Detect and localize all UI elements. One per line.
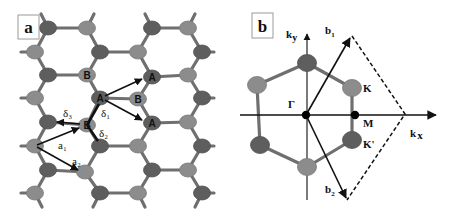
atom xyxy=(130,139,147,153)
panel-b-label: b xyxy=(258,17,267,36)
atom xyxy=(92,139,109,153)
atom xyxy=(92,186,109,200)
atom xyxy=(194,139,211,153)
atom xyxy=(180,68,197,82)
atom-label-a: A xyxy=(96,93,103,104)
atom xyxy=(194,186,211,200)
atom-label-b: B xyxy=(83,70,90,81)
vector-labels: δ₃ δ₁ δ₂ a₁ a₂ xyxy=(58,107,110,167)
atom xyxy=(180,21,197,35)
brillouin-corner xyxy=(298,159,317,176)
atom xyxy=(92,45,109,59)
graphene-lattice-figure: BAABBA δ₃ δ₁ δ₂ a₁ a₂ a xyxy=(0,0,457,216)
panel-a-real-space-lattice: BAABBA δ₃ δ₁ δ₂ a₁ a₂ a xyxy=(18,14,214,207)
k-prime-point-label: K' xyxy=(363,138,375,150)
atom xyxy=(27,91,44,105)
a1-label: a₁ xyxy=(58,139,67,151)
atom xyxy=(194,45,211,59)
m-point-label: M xyxy=(363,117,374,129)
b2-label: b2 xyxy=(325,183,335,198)
brillouin-corner xyxy=(251,137,270,154)
atom xyxy=(27,45,44,59)
brillouin-corner xyxy=(298,55,317,72)
atom xyxy=(130,45,147,59)
corner-k-prime xyxy=(343,132,362,149)
gamma-label: Γ xyxy=(288,98,295,110)
kx-label: kx xyxy=(410,127,423,141)
b1-label: b1 xyxy=(325,24,335,39)
atom-label-a: A xyxy=(148,118,155,129)
atom-label-a: A xyxy=(148,72,155,83)
a2-label: a₂ xyxy=(72,155,81,167)
ky-label: ky xyxy=(286,28,297,43)
b1-vector xyxy=(306,38,350,115)
atom xyxy=(40,163,57,177)
delta3-label: δ₃ xyxy=(63,107,72,119)
panel-b-brillouin-zone: ky b1 K Γ M kx K' b2 b xyxy=(240,13,436,200)
lattice-bonds xyxy=(21,14,214,207)
gamma-point xyxy=(302,111,310,119)
m-point xyxy=(351,111,359,119)
delta2-label: δ₂ xyxy=(99,127,108,139)
atom xyxy=(27,139,44,153)
k-point-label: K xyxy=(363,82,372,94)
atom xyxy=(40,21,57,35)
corner-k xyxy=(343,80,362,97)
atom xyxy=(194,91,211,105)
atom xyxy=(130,186,147,200)
atom xyxy=(40,68,57,82)
delta1-label: δ₁ xyxy=(101,107,110,119)
atom xyxy=(180,115,197,129)
atom xyxy=(144,21,161,35)
atom xyxy=(144,163,161,177)
atom-label-b: B xyxy=(134,94,141,105)
lattice-atoms: BAABBA xyxy=(27,21,211,200)
atom xyxy=(79,21,96,35)
atom xyxy=(180,163,197,177)
atom xyxy=(27,186,44,200)
atom xyxy=(77,165,94,179)
atom xyxy=(40,115,57,129)
brillouin-corner xyxy=(248,77,267,94)
panel-a-label: a xyxy=(24,18,33,37)
